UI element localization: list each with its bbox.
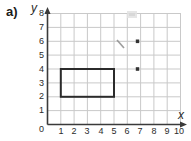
coordinate-grid-figure: a): [0, 0, 191, 141]
x-tick-1: 1: [55, 126, 67, 136]
pencil-smudge: [127, 11, 137, 18]
x-tick-2: 2: [68, 126, 80, 136]
y-tick-5: 5: [34, 50, 44, 60]
x-axis-label: x: [178, 108, 184, 122]
x-tick-10: 10: [173, 126, 185, 136]
y-tick-1: 1: [34, 105, 44, 115]
y-tick-8: 8: [34, 8, 44, 18]
y-tick-7: 7: [34, 22, 44, 32]
x-tick-5: 5: [108, 126, 120, 136]
origin-label: 0: [34, 124, 44, 134]
x-tick-6: 6: [121, 126, 133, 136]
x-tick-7: 7: [134, 126, 146, 136]
point-mark-7-6: [136, 40, 139, 44]
y-tick-3: 3: [34, 78, 44, 88]
axis-lines: [48, 11, 184, 125]
x-tick-3: 3: [81, 126, 93, 136]
y-axis-arrow: [44, 7, 50, 14]
x-tick-4: 4: [95, 126, 107, 136]
x-tick-9: 9: [161, 126, 173, 136]
x-tick-8: 8: [148, 126, 160, 136]
y-tick-4: 4: [34, 64, 44, 74]
y-tick-2: 2: [34, 91, 44, 101]
y-tick-6: 6: [34, 36, 44, 46]
point-mark-7-4: [136, 67, 139, 71]
grid-svg: [0, 0, 191, 141]
